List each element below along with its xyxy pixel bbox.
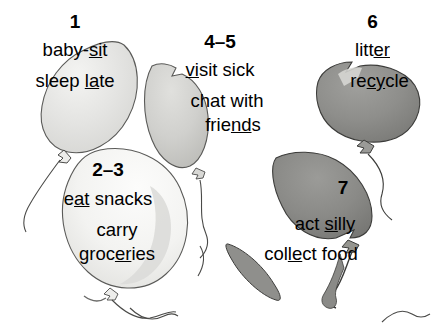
g7l1-mark: si bbox=[324, 213, 337, 234]
g1l1-mark: si bbox=[89, 39, 102, 60]
g4l1-mark: vi bbox=[186, 59, 199, 80]
g6l2-mark: cy bbox=[367, 70, 386, 91]
g2l3-mark: er bbox=[115, 243, 131, 264]
group-4-5-line-3: friends bbox=[150, 114, 290, 136]
text-layer: 1 baby-sit sleep late 2–3 eat snacks car… bbox=[0, 0, 435, 333]
g4l2-pre: chat with bbox=[190, 90, 263, 111]
group-2-3-line-1: eat snacks bbox=[28, 188, 188, 210]
g4l3-mark: nd bbox=[231, 114, 252, 135]
group-4-5-number: 4–5 bbox=[150, 32, 290, 51]
g4l3-pre: frie bbox=[205, 114, 231, 135]
g7l2-post: ct food bbox=[302, 243, 358, 264]
group-1-line-1: baby-sit bbox=[0, 39, 150, 61]
g4l3-post: s bbox=[252, 114, 261, 135]
g1l1-post: t bbox=[102, 39, 107, 60]
group-4-5: 4–5 visit sick chat with friends bbox=[150, 32, 290, 136]
g2l1-pre: e bbox=[64, 188, 74, 209]
g6l2-pre: re bbox=[350, 70, 366, 91]
g6l2-post: cle bbox=[385, 70, 409, 91]
g1l1-pre: baby- bbox=[43, 39, 89, 60]
g6l1-pre: litt bbox=[355, 39, 374, 60]
g1l2-pre: sleep bbox=[35, 70, 84, 91]
g1l2-mark: la bbox=[85, 70, 99, 91]
g2l1-mark: at bbox=[74, 188, 89, 209]
worksheet-canvas: 1 baby-sit sleep late 2–3 eat snacks car… bbox=[0, 0, 435, 333]
group-6-number: 6 bbox=[310, 12, 435, 31]
g4l1-post: sit sick bbox=[199, 59, 255, 80]
group-4-5-line-1: visit sick bbox=[150, 59, 290, 81]
group-1-number: 1 bbox=[0, 12, 150, 31]
group-6-line-1: litter bbox=[310, 39, 435, 61]
g7l1-post: lly bbox=[338, 213, 355, 234]
group-4-5-line-2: chat with bbox=[150, 90, 290, 112]
group-1: 1 baby-sit sleep late bbox=[0, 12, 150, 92]
g2l1-post: snacks bbox=[90, 188, 153, 209]
group-7-number: 7 bbox=[236, 178, 386, 197]
group-7-line-2: collect food bbox=[236, 243, 386, 265]
group-2-3-number: 2–3 bbox=[28, 160, 188, 179]
g2l3-pre: groc bbox=[79, 243, 115, 264]
g7l2-mark: le bbox=[288, 243, 302, 264]
g6l1-mark: er bbox=[374, 39, 390, 60]
group-2-3-line-3: groceries bbox=[28, 243, 188, 265]
group-2-3-line-2: carry bbox=[28, 219, 188, 241]
g2l2-pre: carry bbox=[96, 219, 137, 240]
group-6-line-2: recycle bbox=[310, 70, 435, 92]
g2l3-post: ies bbox=[131, 243, 155, 264]
group-1-line-2: sleep late bbox=[0, 70, 150, 92]
group-2-3: 2–3 eat snacks carry groceries bbox=[28, 160, 188, 265]
group-6: 6 litter recycle bbox=[310, 12, 435, 92]
g1l2-post: te bbox=[99, 70, 114, 91]
group-7-line-1: act silly bbox=[236, 213, 386, 235]
g7l2-pre: col bbox=[264, 243, 288, 264]
group-7: 7 act silly collect food bbox=[236, 178, 386, 265]
g7l1-pre: act bbox=[295, 213, 325, 234]
